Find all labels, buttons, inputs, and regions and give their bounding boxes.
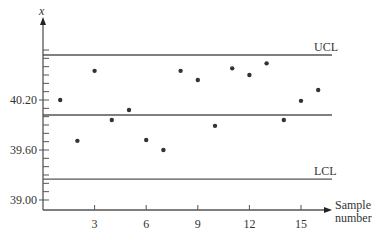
control-limit-lines <box>43 55 332 179</box>
ucl-label: UCL <box>314 40 338 54</box>
y-tick-label: 40.20 <box>10 93 37 107</box>
x-axis-arrow-icon <box>324 207 332 213</box>
data-point <box>58 98 62 102</box>
data-point <box>247 73 251 77</box>
data-point <box>161 148 165 152</box>
data-point <box>282 118 286 122</box>
data-point <box>230 66 234 70</box>
chart-svg: 39.0039.6040.203691215 x UCL LCL Sample … <box>0 0 382 241</box>
axes: 39.0039.6040.203691215 <box>10 17 332 231</box>
data-point <box>178 69 182 73</box>
x-tick-label: 6 <box>143 217 149 231</box>
data-point <box>144 138 148 142</box>
y-tick-label: 39.60 <box>10 143 37 157</box>
data-point <box>110 118 114 122</box>
x-axis-label-line2: number <box>335 211 372 225</box>
x-tick-label: 3 <box>92 217 98 231</box>
data-point <box>316 88 320 92</box>
data-point <box>75 139 79 143</box>
data-point <box>264 61 268 65</box>
data-points <box>58 61 320 152</box>
data-point <box>92 69 96 73</box>
data-point <box>196 78 200 82</box>
data-point <box>127 108 131 112</box>
y-axis-arrow-icon <box>40 17 46 25</box>
lcl-label: LCL <box>314 164 337 178</box>
data-point <box>299 99 303 103</box>
control-chart: 39.0039.6040.203691215 x UCL LCL Sample … <box>0 0 382 241</box>
x-axis-label-line1: Sample <box>335 198 371 212</box>
y-tick-label: 39.00 <box>10 193 37 207</box>
data-point <box>213 124 217 128</box>
y-axis-label: x <box>38 4 45 18</box>
x-tick-label: 12 <box>243 217 255 231</box>
x-tick-label: 9 <box>195 217 201 231</box>
x-tick-label: 15 <box>295 217 307 231</box>
